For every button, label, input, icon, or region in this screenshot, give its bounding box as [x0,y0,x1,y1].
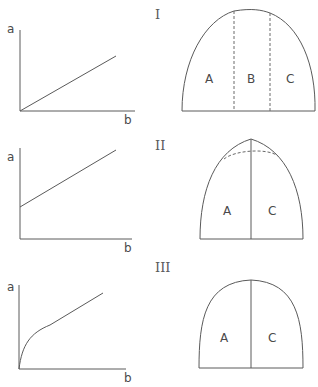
curve-line [19,293,103,369]
x-axis-label: b [124,241,132,255]
region-label-a: A [220,331,229,345]
x-axis-label: b [124,113,132,127]
shape-panel-3: A C [199,280,303,368]
region-label-c: C [268,204,276,218]
y-axis-label: a [7,22,14,36]
region-label-b: B [247,72,255,86]
shape-panel-2: A C [200,139,303,239]
panel-label-3: III [155,260,170,275]
graph-panel-3: a b [7,280,132,385]
graph-panel-1: a b [7,22,135,127]
x-axis-label: b [124,371,132,385]
graph-panel-2: a b [7,148,132,255]
y-axis-label: a [7,150,14,164]
region-label-c: C [286,72,294,86]
panel-label-2: II [155,138,165,153]
region-label-a: A [205,72,214,86]
curve-line [20,56,116,111]
figure: a b I A B C a b II A C a b III A [0,0,318,387]
panel-label-1: I [155,7,160,22]
y-axis-label: a [7,280,14,294]
dome-outline [182,10,315,111]
region-label-c: C [268,331,276,345]
curve-line [20,150,116,207]
region-label-a: A [223,204,232,218]
shape-panel-1: A B C [182,10,315,111]
